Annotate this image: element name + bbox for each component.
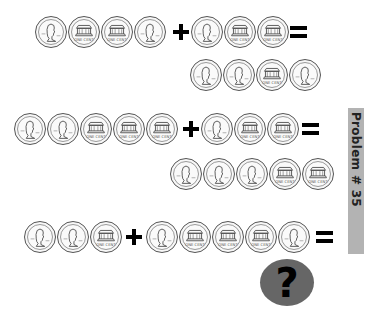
problem-2-answer-coin-penny-heads-icon xyxy=(236,158,268,190)
problem-label-bar: Problem # 35 xyxy=(348,108,364,254)
problem-2-answer-coin-penny-heads-icon xyxy=(170,158,202,190)
equals-sign-icon xyxy=(290,25,307,39)
problem-2-right-coin-penny-heads-icon xyxy=(201,113,233,145)
problem-3-right-coin-penny-tails-icon: ONE CENT xyxy=(212,221,244,253)
svg-text:ONE CENT: ONE CENT xyxy=(119,135,139,139)
problem-2-left-coin-penny-tails-icon: ONE CENT xyxy=(146,113,178,145)
equals-sign-icon xyxy=(302,122,319,136)
problem-3-right-coin-penny-heads-icon xyxy=(146,221,178,253)
problem-2-right-coin-penny-tails-icon: ONE CENT xyxy=(234,113,266,145)
problem-1-answer-coin-penny-heads-icon xyxy=(289,59,321,91)
problem-1-right-coin-penny-tails-icon: ONE CENT xyxy=(257,16,289,48)
svg-text:ONE CENT: ONE CENT xyxy=(273,135,293,139)
svg-text:ONE CENT: ONE CENT xyxy=(308,180,328,184)
problem-1-left-coin-penny-tails-icon: ONE CENT xyxy=(68,16,100,48)
svg-text:ONE CENT: ONE CENT xyxy=(107,38,127,42)
problem-3-right-coin-penny-heads-icon xyxy=(278,221,310,253)
svg-text:ONE CENT: ONE CENT xyxy=(240,135,260,139)
svg-text:ONE CENT: ONE CENT xyxy=(251,243,271,247)
svg-text:ONE CENT: ONE CENT xyxy=(96,243,116,247)
problem-2-answer-coin-penny-tails-icon: ONE CENT xyxy=(269,158,301,190)
problem-2-left-coin-penny-heads-icon xyxy=(14,113,46,145)
plus-sign-icon xyxy=(173,24,189,40)
problem-1-left-coin-penny-tails-icon: ONE CENT xyxy=(101,16,133,48)
svg-text:ONE CENT: ONE CENT xyxy=(275,180,295,184)
problem-3-left-coin-penny-heads-icon xyxy=(57,221,89,253)
svg-text:ONE CENT: ONE CENT xyxy=(185,243,205,247)
svg-text:ONE CENT: ONE CENT xyxy=(74,38,94,42)
problem-1-left-coin-penny-heads-icon xyxy=(134,16,166,48)
unknown-answer-circle[interactable]: ? xyxy=(260,259,314,306)
question-mark-icon: ? xyxy=(275,260,298,306)
problem-1-right-coin-penny-tails-icon: ONE CENT xyxy=(224,16,256,48)
problem-3-left-coin-penny-tails-icon: ONE CENT xyxy=(90,221,122,253)
svg-text:ONE CENT: ONE CENT xyxy=(152,135,172,139)
problem-1-right-coin-penny-heads-icon xyxy=(191,16,223,48)
plus-sign-icon xyxy=(183,121,199,137)
svg-text:ONE CENT: ONE CENT xyxy=(262,81,282,85)
svg-text:ONE CENT: ONE CENT xyxy=(86,135,106,139)
problem-3-right-coin-penny-tails-icon: ONE CENT xyxy=(179,221,211,253)
problem-1-answer-coin-penny-tails-icon: ONE CENT xyxy=(256,59,288,91)
problem-2-answer-coin-penny-tails-icon: ONE CENT xyxy=(302,158,334,190)
problem-3-right-coin-penny-tails-icon: ONE CENT xyxy=(245,221,277,253)
problem-number-label: Problem # 35 xyxy=(348,108,364,258)
plus-sign-icon xyxy=(126,229,142,245)
problem-2-answer-coin-penny-heads-icon xyxy=(203,158,235,190)
problem-2-left-coin-penny-tails-icon: ONE CENT xyxy=(113,113,145,145)
problem-2-left-coin-penny-heads-icon xyxy=(47,113,79,145)
problem-1-answer-coin-penny-heads-icon xyxy=(190,59,222,91)
problem-1-left-coin-penny-heads-icon xyxy=(35,16,67,48)
svg-text:ONE CENT: ONE CENT xyxy=(263,38,283,42)
equals-sign-icon xyxy=(316,230,333,244)
svg-text:ONE CENT: ONE CENT xyxy=(218,243,238,247)
problem-2-right-coin-penny-tails-icon: ONE CENT xyxy=(267,113,299,145)
problem-1-answer-coin-penny-heads-icon xyxy=(223,59,255,91)
svg-text:ONE CENT: ONE CENT xyxy=(230,38,250,42)
problem-2-left-coin-penny-tails-icon: ONE CENT xyxy=(80,113,112,145)
problem-3-left-coin-penny-heads-icon xyxy=(24,221,56,253)
